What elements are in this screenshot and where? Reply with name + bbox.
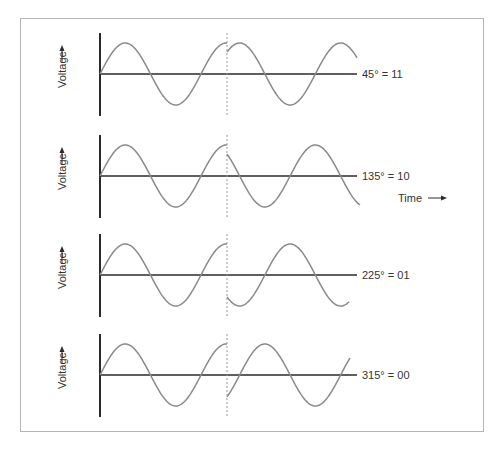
phase-label: 315° = 00 (362, 369, 410, 381)
figure-frame (21, 19, 484, 432)
phase-label: 45° = 11 (362, 68, 403, 80)
phase-label: 225° = 01 (362, 269, 410, 281)
phase-label: 135° = 10 (362, 170, 410, 182)
phase-shift-diagram: Voltage45° = 11Voltage135° = 10Voltage22… (0, 0, 503, 451)
time-axis-label: Time (398, 192, 422, 204)
